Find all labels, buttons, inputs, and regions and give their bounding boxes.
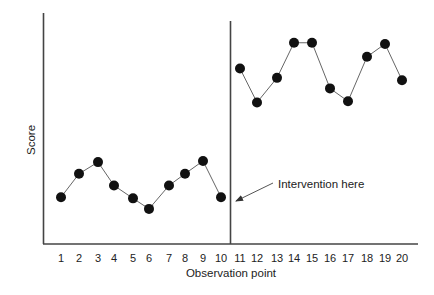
- x-tick-label: 7: [166, 252, 172, 264]
- data-point: [180, 169, 190, 179]
- x-tick-label: 4: [111, 252, 117, 264]
- x-tick-label: 3: [95, 252, 101, 264]
- chart: Intervention here Score Observation poin…: [0, 0, 434, 295]
- data-point: [56, 192, 66, 202]
- data-point: [307, 38, 317, 48]
- series-line-segment: [61, 161, 221, 209]
- x-tick-label: 13: [271, 252, 283, 264]
- x-tick-label: 6: [146, 252, 152, 264]
- x-axis-label: Observation point: [186, 267, 277, 279]
- x-tick-label: 1: [58, 252, 64, 264]
- x-tick-label: 2: [76, 252, 82, 264]
- series-line-segment: [240, 43, 402, 103]
- data-point: [289, 38, 299, 48]
- data-point: [93, 157, 103, 167]
- data-point: [380, 39, 390, 49]
- x-tick-label: 20: [396, 252, 408, 264]
- data-point: [252, 97, 262, 107]
- x-tick-label: 19: [379, 252, 391, 264]
- x-tick-label: 17: [342, 252, 354, 264]
- data-point: [164, 181, 174, 191]
- annotation-text: Intervention here: [278, 178, 364, 190]
- data-point: [128, 193, 138, 203]
- y-axis-label: Score: [25, 125, 37, 155]
- x-tick-label: 8: [182, 252, 188, 264]
- x-tick-label: 12: [251, 252, 263, 264]
- x-tick-label: 10: [215, 252, 227, 264]
- data-point: [74, 169, 84, 179]
- x-tick-labels: 1234567891011121314151617181920: [58, 252, 408, 264]
- data-point: [362, 52, 372, 62]
- x-tick-label: 16: [324, 252, 336, 264]
- data-point: [343, 96, 353, 106]
- data-point: [144, 204, 154, 214]
- data-point: [325, 83, 335, 93]
- x-tick-label: 11: [234, 252, 245, 264]
- data-point: [198, 156, 208, 166]
- data-point: [235, 64, 245, 74]
- data-point: [216, 192, 226, 202]
- x-tick-label: 5: [130, 252, 136, 264]
- data-point: [109, 181, 119, 191]
- x-tick-label: 18: [361, 252, 373, 264]
- x-tick-label: 14: [288, 252, 300, 264]
- x-tick-label: 9: [200, 252, 206, 264]
- data-point: [272, 73, 282, 83]
- data-point: [397, 75, 407, 85]
- annotation-arrow: [236, 183, 273, 201]
- x-tick-label: 15: [306, 252, 318, 264]
